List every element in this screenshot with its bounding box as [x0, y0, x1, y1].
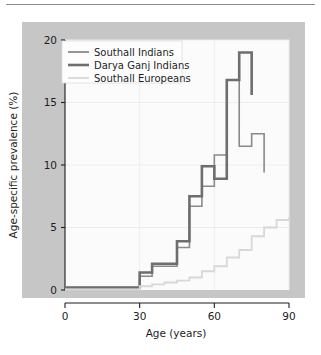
x-tick-label: 90: [282, 310, 295, 322]
x-axis-title: Age (years): [146, 327, 207, 339]
y-tick-label: 20: [44, 34, 57, 46]
chart-legend: Southall IndiansDarya Ganj IndiansSoutha…: [62, 41, 191, 84]
x-tick-label: 0: [62, 310, 69, 322]
y-tick-label: 10: [44, 159, 57, 171]
prevalence-step-chart: 05101520 0306090 Age-specific prevalence…: [0, 0, 321, 355]
y-axis-title: Age-specific prevalence (%): [7, 92, 19, 239]
x-axis: [65, 303, 289, 308]
y-tick-label: 0: [50, 284, 57, 296]
legend-label-2: Southall Europeans: [94, 73, 191, 84]
y-tick-label: 5: [50, 221, 57, 233]
data-series-group: [65, 53, 289, 290]
y-tick-label: 15: [44, 96, 57, 108]
legend-label-1: Darya Ganj Indians: [94, 60, 189, 71]
legend-label-0: Southall Indians: [94, 47, 174, 58]
x-axis-tick-labels: 0306090: [62, 310, 296, 322]
y-axis-tick-labels: 05101520: [44, 34, 57, 296]
legend-items: Southall IndiansDarya Ganj IndiansSoutha…: [68, 47, 191, 84]
x-tick-label: 60: [208, 310, 221, 322]
x-tick-label: 30: [133, 310, 146, 322]
series-line-0: [65, 80, 264, 288]
series-line-1: [65, 53, 252, 288]
